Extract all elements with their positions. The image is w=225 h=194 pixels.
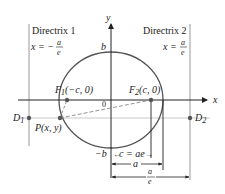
- point-F2: [149, 98, 153, 102]
- point-D1: [27, 116, 31, 120]
- dashed-line-P-to-F1: [60, 100, 67, 118]
- point-F1: [65, 98, 69, 102]
- directrix-2-eq: x =: [162, 41, 177, 52]
- directrix-2-frac-den: e: [181, 48, 185, 57]
- point-P: [58, 116, 62, 120]
- F1-label: F1(−c, 0): [54, 84, 94, 97]
- b-top-label: b: [101, 41, 106, 52]
- P-label: P(x, y): [34, 122, 62, 134]
- dim-label-a-over-e-num: a: [148, 167, 152, 176]
- directrix-2-title: Directrix 2: [143, 25, 187, 36]
- D1-label: D1: [12, 112, 24, 125]
- dim-label-a: a: [133, 158, 138, 169]
- origin-label: 0: [102, 100, 106, 109]
- ellipse-diagram: Directrix 1 x = − a e Directrix 2 x = a …: [0, 0, 225, 194]
- point-D2: [188, 116, 192, 120]
- F2-label: F2(c, 0): [128, 84, 161, 97]
- directrix-1-eq: x = −: [30, 41, 54, 52]
- x-axis-label: x: [212, 94, 218, 105]
- directrix-1-frac-den: e: [57, 48, 61, 57]
- dim-label-a-over-e-den: e: [148, 177, 152, 186]
- D2-label: D2: [194, 112, 206, 125]
- directrix-1-title: Directrix 1: [32, 25, 76, 36]
- dim-label-c-arrow: →: [145, 150, 153, 159]
- b-bottom-label: −b: [95, 148, 107, 159]
- directrix-1-frac-num: a: [57, 38, 61, 47]
- directrix-2-frac-num: a: [181, 38, 185, 47]
- y-axis-label: y: [105, 12, 111, 23]
